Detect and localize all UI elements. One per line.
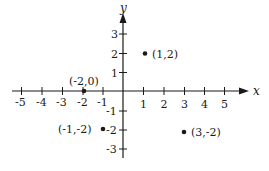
point-label: (3,-2) bbox=[191, 126, 221, 139]
x-tick-label: -5 bbox=[15, 96, 26, 109]
point-marker bbox=[182, 130, 187, 135]
point-3-neg2: (3,-2) bbox=[182, 126, 221, 139]
y-tick-label: 3 bbox=[111, 28, 118, 41]
x-tick-label: 3 bbox=[181, 98, 188, 111]
x-tick-labels: -5 -4 -3 -2 -1 1 2 3 4 5 bbox=[15, 96, 228, 111]
y-tick-labels: 3 2 1 -1 -2 -3 bbox=[106, 28, 118, 156]
x-tick-label: 4 bbox=[201, 98, 208, 111]
x-tick-label: -2 bbox=[77, 96, 88, 109]
point-marker bbox=[101, 127, 106, 132]
y-tick-label: 2 bbox=[111, 48, 118, 61]
y-tick-label: -2 bbox=[106, 124, 117, 137]
point-marker bbox=[143, 51, 148, 56]
x-tick-label: 2 bbox=[161, 98, 168, 111]
x-axis-arrow-icon bbox=[239, 88, 249, 95]
coordinate-plane: x y -5 -4 -3 -2 -1 1 2 3 4 5 bbox=[0, 0, 269, 171]
y-tick-label: -3 bbox=[106, 143, 117, 156]
y-axis-label: y bbox=[119, 1, 127, 15]
point-label: (-2,0) bbox=[69, 75, 99, 88]
x-tick-label: -4 bbox=[36, 96, 47, 109]
x-tick-label: -3 bbox=[56, 96, 67, 109]
point-label: (1,2) bbox=[152, 48, 178, 61]
x-tick-label: 5 bbox=[221, 98, 228, 111]
point-1-2: (1,2) bbox=[143, 48, 178, 61]
x-tick-label: 1 bbox=[140, 98, 147, 111]
y-tick-label: 1 bbox=[111, 67, 118, 80]
point-marker bbox=[82, 89, 87, 94]
point-label: (-1,-2) bbox=[58, 123, 92, 136]
y-tick-label: -1 bbox=[106, 105, 117, 118]
x-axis-label: x bbox=[253, 84, 260, 98]
point-neg1-neg2: (-1,-2) bbox=[58, 123, 105, 136]
